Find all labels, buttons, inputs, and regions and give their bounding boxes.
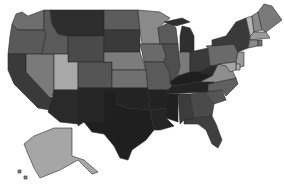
states-layer bbox=[8, 4, 282, 179]
state-alaska bbox=[24, 128, 98, 178]
state-iowa bbox=[140, 44, 166, 62]
state-wyoming bbox=[68, 36, 104, 62]
state-new-mexico bbox=[78, 88, 104, 126]
state-rhode-island bbox=[258, 40, 262, 46]
state-connecticut bbox=[248, 40, 258, 48]
state-massachusetts bbox=[250, 32, 270, 40]
state-south-dakota bbox=[104, 30, 140, 52]
state-kansas bbox=[112, 70, 148, 88]
state-florida bbox=[184, 116, 222, 148]
state-delaware bbox=[236, 64, 240, 70]
state-mississippi bbox=[166, 94, 178, 122]
state-arkansas bbox=[148, 90, 168, 110]
us-choropleth-map bbox=[0, 0, 284, 188]
state-washington bbox=[12, 10, 44, 30]
state-north-dakota bbox=[104, 10, 140, 30]
state-maine bbox=[258, 4, 282, 32]
state-montana bbox=[50, 10, 104, 36]
state-colorado bbox=[78, 62, 112, 88]
state-arizona bbox=[48, 90, 78, 124]
state-hawaii bbox=[18, 170, 27, 179]
